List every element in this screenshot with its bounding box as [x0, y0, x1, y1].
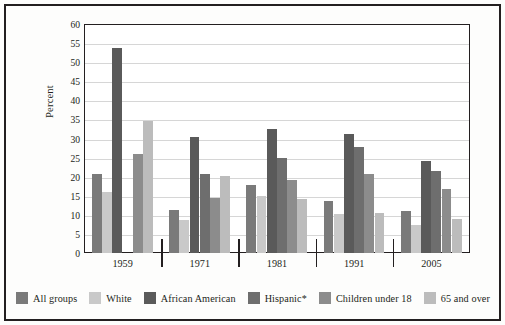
y-axis-tick-label: 10 [54, 209, 80, 220]
chart-figure: Percent 051015202530354045505560 1959197… [0, 0, 505, 325]
legend-item[interactable]: White [89, 292, 131, 304]
x-axis-tick-label: 1991 [344, 258, 364, 269]
y-axis-tick-label: 55 [54, 38, 80, 49]
legend-item-label: All groups [33, 293, 77, 304]
gridline [85, 159, 469, 160]
legend-item[interactable]: African American [144, 292, 236, 304]
group-separator [316, 239, 318, 267]
gridline [85, 235, 469, 236]
gridline [85, 120, 469, 121]
y-axis-tick-labels: 051015202530354045505560 [52, 24, 80, 253]
legend-item-label: African American [161, 293, 236, 304]
group-separator [238, 239, 240, 267]
group-separator [161, 239, 163, 267]
y-axis-tick-label: 45 [54, 76, 80, 87]
legend-item-label: Hispanic* [265, 293, 307, 304]
x-axis-tick-label: 1959 [112, 258, 132, 269]
y-axis-tick-label: 5 [54, 228, 80, 239]
legend-swatch-icon [144, 292, 156, 304]
gridline [85, 140, 469, 141]
y-axis-tick-label: 60 [54, 19, 80, 30]
y-axis-tick-label: 30 [54, 133, 80, 144]
gridline [85, 197, 469, 198]
legend-item[interactable]: All groups [16, 292, 77, 304]
y-axis-tick-label: 25 [54, 152, 80, 163]
plot-area [84, 24, 470, 253]
plot-wrapper: Percent 051015202530354045505560 1959197… [0, 0, 505, 325]
y-axis-tick-label: 50 [54, 57, 80, 68]
legend-swatch-icon [16, 292, 28, 304]
chart-legend: All groupsWhiteAfrican AmericanHispanic*… [16, 288, 490, 308]
legend-swatch-icon [89, 292, 101, 304]
gridline [85, 178, 469, 179]
y-axis-tick-label: 20 [54, 171, 80, 182]
legend-item-label: 65 and over [441, 293, 490, 304]
y-axis-tick-label: 35 [54, 114, 80, 125]
legend-item-label: Children under 18 [336, 293, 412, 304]
legend-item[interactable]: Hispanic* [248, 292, 307, 304]
legend-swatch-icon [319, 292, 331, 304]
legend-swatch-icon [248, 292, 260, 304]
gridline [85, 216, 469, 217]
y-axis-tick-label: 15 [54, 190, 80, 201]
y-axis-tick-label: 0 [54, 248, 80, 259]
group-separator [393, 239, 395, 267]
legend-item[interactable]: 65 and over [424, 292, 490, 304]
y-axis-tick-label: 40 [54, 95, 80, 106]
gridline [85, 44, 469, 45]
legend-swatch-icon [424, 292, 436, 304]
gridline [85, 101, 469, 102]
x-axis-tick-label: 1971 [190, 258, 210, 269]
gridline [85, 63, 469, 64]
x-axis-tick-label: 2005 [421, 258, 441, 269]
legend-item-label: White [106, 293, 131, 304]
legend-item[interactable]: Children under 18 [319, 292, 412, 304]
gridline [85, 82, 469, 83]
x-axis-tick-label: 1981 [267, 258, 287, 269]
